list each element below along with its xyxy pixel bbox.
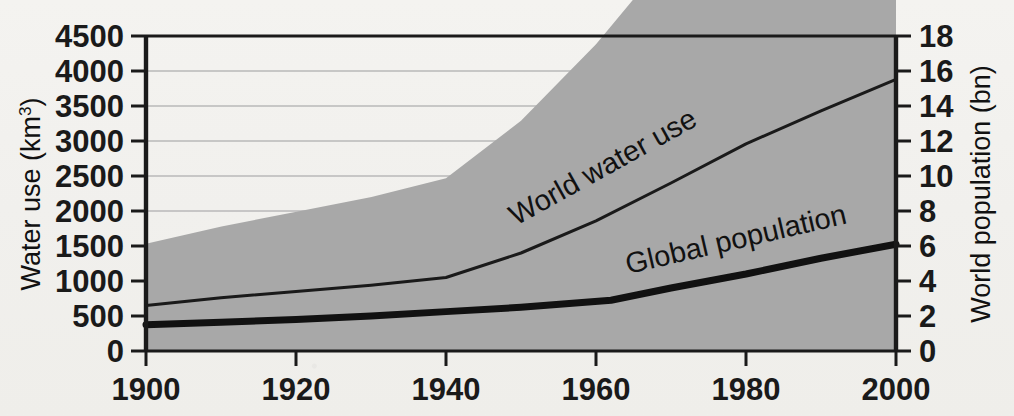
left-tick-label: 2500: [55, 159, 124, 194]
left-axis-ticks: [131, 36, 146, 351]
x-axis-ticks: [146, 351, 896, 366]
left-tick-label: 1500: [55, 229, 124, 264]
right-tick-label: 18: [919, 19, 953, 54]
x-tick-label: 1920: [262, 372, 331, 407]
left-tick-label: 4000: [55, 54, 124, 89]
chart-figure: 4500 4000 3500 3000 2500 2000 1500 1000 …: [0, 0, 1014, 416]
right-tick-label: 8: [919, 194, 936, 229]
svg-text:Water use (km3): Water use (km3): [16, 98, 46, 291]
right-axis-tick-labels: 18 16 14 12 10 8 6 4 2 0: [919, 19, 954, 369]
right-tick-label: 6: [919, 229, 936, 264]
right-tick-label: 12: [919, 124, 953, 159]
water-use-population-chart: 4500 4000 3500 3000 2500 2000 1500 1000 …: [0, 0, 1014, 416]
right-axis-title: World population (bn): [966, 65, 996, 323]
left-tick-label: 4500: [55, 19, 124, 54]
left-tick-label: 3000: [55, 124, 124, 159]
right-tick-label: 0: [919, 334, 936, 369]
right-tick-label: 2: [919, 299, 936, 334]
left-axis-title-text: Water use (km: [16, 116, 46, 291]
left-tick-label: 0: [107, 334, 124, 369]
right-tick-label: 14: [919, 89, 954, 124]
left-tick-label: 2000: [55, 194, 124, 229]
left-tick-label: 1000: [55, 264, 124, 299]
left-axis-tick-labels: 4500 4000 3500 3000 2500 2000 1500 1000 …: [55, 19, 124, 369]
left-axis-title: Water use (km3): [16, 98, 46, 291]
right-tick-label: 4: [919, 264, 937, 299]
x-tick-label: 2000: [862, 372, 931, 407]
x-tick-label: 1940: [412, 372, 481, 407]
right-axis-title-text: World population (bn): [966, 65, 996, 323]
right-tick-label: 16: [919, 54, 953, 89]
left-tick-label: 3500: [55, 89, 124, 124]
right-tick-label: 10: [919, 159, 953, 194]
left-tick-label: 500: [72, 299, 124, 334]
left-axis-title-superscript: 3: [16, 107, 35, 116]
x-tick-label: 1960: [562, 372, 631, 407]
left-axis-title-suffix: ): [16, 98, 46, 107]
x-axis-tick-labels: 1900 1920 1940 1960 1980 2000: [112, 372, 931, 407]
x-tick-label: 1980: [712, 372, 781, 407]
x-tick-label: 1900: [112, 372, 181, 407]
right-axis-ticks: [896, 36, 911, 351]
